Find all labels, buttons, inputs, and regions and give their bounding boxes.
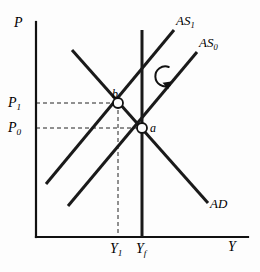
clockwise-shift-arrow [155,66,171,89]
p1-base: P [8,95,17,110]
output-axis-label: Y [228,240,236,254]
as1-curve-label: AS1 [176,14,195,27]
ad-curve-label: AD [210,197,227,210]
p0-base: P [8,120,17,135]
p1-tick-label: P1 [8,96,21,110]
p0-subscript: 0 [17,127,22,137]
yf-tick-label: Yf [136,242,146,256]
as0-base: AS [199,35,213,50]
as1-base: AS [176,13,190,28]
p0-tick-label: P0 [8,121,21,135]
as0-curve-label: AS0 [199,36,218,49]
as1-subscript: 1 [190,20,194,30]
y1-tick-label: Y1 [110,242,122,256]
y1-subscript: 1 [118,248,123,258]
diagram-canvas [0,0,260,272]
as-ad-diagram: P Y P1 P0 Y1 Yf AS1 AS0 AD a b [0,0,260,272]
as0-curve [68,52,197,206]
point-a-label: a [150,122,156,134]
p1-subscript: 1 [17,102,22,112]
yf-base: Y [136,241,144,256]
y1-base: Y [110,241,118,256]
price-axis-label: P [14,16,23,30]
equilibrium-point-a [137,123,147,133]
yf-subscript: f [144,248,147,258]
as1-curve [46,30,174,184]
as0-subscript: 0 [213,42,217,52]
point-b-label: b [112,88,118,100]
